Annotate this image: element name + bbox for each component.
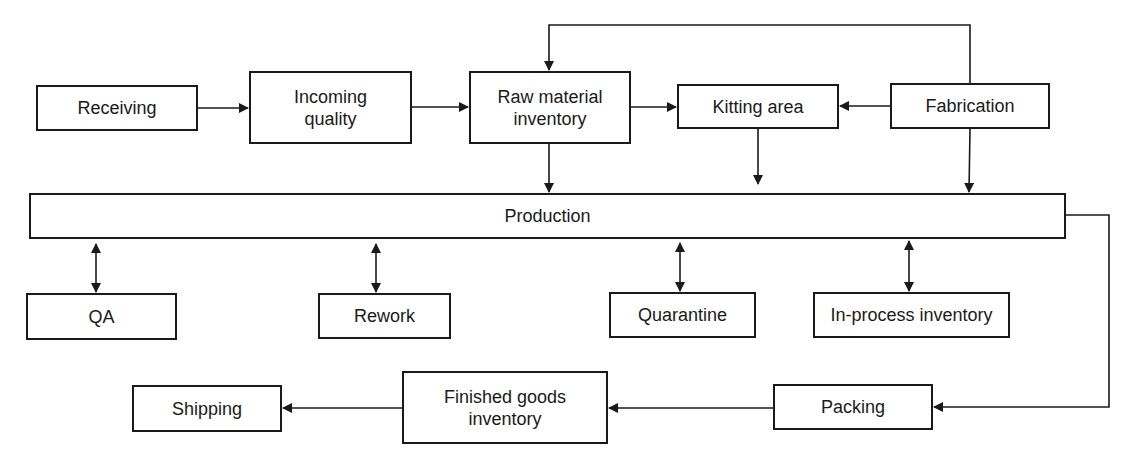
node-shipping: Shipping	[132, 385, 282, 432]
node-incoming-quality: Incoming quality	[249, 71, 412, 144]
node-label: Incoming quality	[294, 86, 367, 130]
node-raw-material-inventory: Raw material inventory	[469, 71, 631, 144]
node-label: Receiving	[77, 97, 156, 119]
node-label: Kitting area	[712, 96, 803, 118]
node-label: In-process inventory	[830, 304, 992, 326]
node-kitting-area: Kitting area	[677, 84, 839, 129]
node-in-process-inventory: In-process inventory	[813, 292, 1010, 338]
node-label: Packing	[821, 396, 885, 418]
node-label: Production	[504, 205, 590, 227]
node-fabrication: Fabrication	[890, 83, 1050, 129]
node-label: Shipping	[172, 398, 242, 420]
node-finished-goods-inventory: Finished goods inventory	[402, 371, 608, 444]
node-label: Raw material inventory	[497, 86, 602, 130]
node-receiving: Receiving	[36, 85, 198, 131]
node-label: Fabrication	[925, 95, 1014, 117]
node-label: Rework	[354, 305, 415, 327]
node-rework: Rework	[318, 293, 451, 339]
edge-fabrication-to-production	[969, 129, 970, 192]
node-label: QA	[88, 306, 114, 328]
node-production: Production	[29, 193, 1066, 239]
node-label: Finished goods inventory	[444, 386, 566, 430]
node-label: Quarantine	[638, 304, 727, 326]
node-packing: Packing	[773, 384, 933, 430]
node-quarantine: Quarantine	[609, 292, 756, 338]
node-qa: QA	[26, 293, 177, 340]
